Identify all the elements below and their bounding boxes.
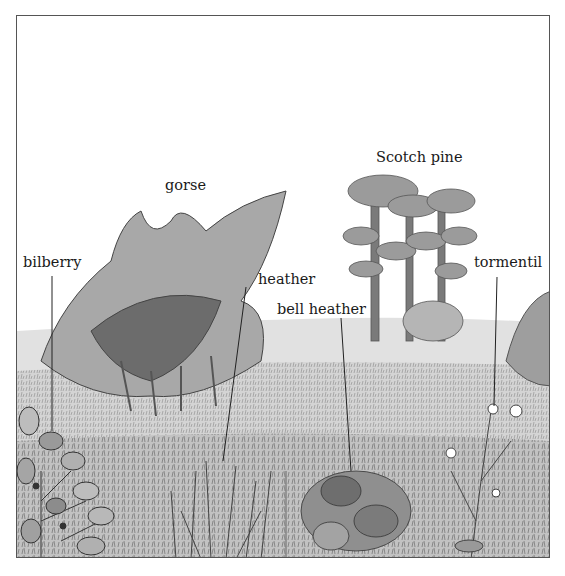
heathland-scene	[17, 16, 550, 558]
label-gorse: gorse	[165, 178, 206, 193]
label-bilberry: bilberry	[23, 255, 81, 270]
label-bell-heather: bell heather	[277, 302, 366, 317]
label-scotch-pine: Scotch pine	[376, 150, 463, 165]
label-tormentil: tormentil	[474, 255, 542, 270]
label-heather: heather	[258, 272, 315, 287]
bell-heather-illustration	[301, 471, 411, 551]
